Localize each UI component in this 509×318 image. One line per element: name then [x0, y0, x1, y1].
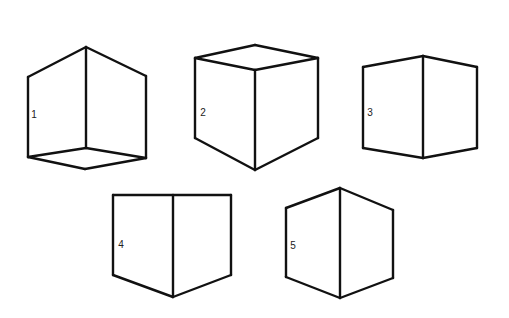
cube-edge — [195, 138, 255, 170]
cube-edge — [255, 138, 318, 170]
cube-drawings — [0, 0, 509, 318]
cube-edge — [340, 188, 393, 210]
cube-edge — [195, 45, 255, 58]
figure-label-2: 2 — [200, 108, 206, 118]
cube-3 — [363, 56, 477, 158]
cube-4 — [113, 195, 231, 297]
cube-edge — [195, 58, 255, 70]
cube-edge — [113, 275, 173, 297]
cube-2 — [195, 45, 318, 170]
figure-label-5: 5 — [290, 241, 296, 251]
cube-edge — [286, 188, 340, 208]
cube-edge — [363, 148, 423, 158]
cube-edge — [28, 148, 86, 157]
cube-edge — [28, 157, 85, 169]
cube-edge — [363, 56, 423, 67]
cube-diagram-canvas: 1 2 3 4 5 — [0, 0, 509, 318]
cube-edge — [255, 45, 318, 58]
cube-edge — [423, 56, 477, 67]
cube-edge — [255, 58, 318, 70]
cube-5 — [286, 188, 393, 298]
cube-1 — [28, 47, 146, 169]
figure-label-4: 4 — [118, 240, 124, 250]
cube-edge — [286, 277, 340, 298]
figure-label-1: 1 — [31, 110, 37, 120]
cube-edge — [85, 158, 146, 169]
cube-edge — [86, 47, 146, 76]
figure-label-3: 3 — [367, 108, 373, 118]
cube-edge — [173, 275, 231, 297]
cube-edge — [28, 47, 86, 77]
cube-edge — [423, 148, 477, 158]
cube-edge — [86, 148, 146, 158]
cube-edge — [340, 278, 393, 298]
